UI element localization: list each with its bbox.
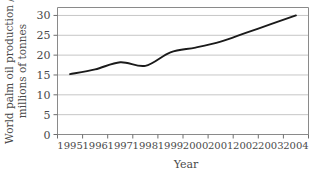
x-tick-label: 1998 [133,140,158,151]
x-tick-label: 2004 [283,140,308,151]
y-tick-label: 0 [44,129,51,142]
x-tick-label: 2000 [183,140,208,151]
y-tick-label: 25 [37,29,51,42]
y-tick-label: 30 [37,9,51,22]
chart-container: 051015202530 199519961997199819992000200… [0,0,321,173]
x-tick-label: 2002 [233,140,258,151]
x-tick-label: 1995 [57,140,82,151]
x-axis-title: Year [173,158,199,171]
x-tick-label: 2003 [258,140,283,151]
y-tick-label: 10 [37,89,51,102]
x-tick-label: 2001 [208,140,233,151]
y-axis-title-line2: millions of tonnes [16,24,28,118]
x-tick-label: 1999 [158,140,183,151]
x-tick-label: 1996 [82,140,107,151]
x-tick-label: 1997 [108,140,133,151]
line-chart: 051015202530 199519961997199819992000200… [0,0,321,173]
y-tick-label: 20 [37,49,51,62]
y-tick-label: 15 [37,69,51,82]
y-tick-label: 5 [44,109,51,122]
y-axis-title-line1: World palm oil production / [3,0,15,144]
